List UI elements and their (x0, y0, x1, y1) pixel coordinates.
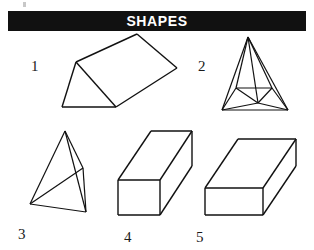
shape-label-5: 5 (196, 229, 204, 246)
tetra-apex-to-back (65, 131, 83, 168)
prism-front-left-edge (62, 62, 76, 107)
prism-top-left-edge (76, 34, 137, 62)
shape-3-tetrahedron (30, 131, 86, 212)
shape-5-rectangular-beam (205, 139, 296, 215)
prism-lower-right-edge (116, 68, 177, 107)
beam4-top-left-receding-edge (118, 131, 151, 180)
shape-4-square-beam (118, 131, 192, 215)
shape-1-triangular-prism (62, 34, 177, 107)
prism-front-right-edge (76, 62, 116, 107)
tetra-base-front-edge (30, 204, 86, 212)
shape-label-2: 2 (198, 58, 206, 75)
shape-diagram-canvas (0, 0, 314, 250)
pyramid-apex-to-back-left (236, 37, 248, 88)
shape-label-1: 1 (31, 58, 39, 75)
tetra-base-left-edge (30, 168, 83, 204)
pyramid-inner-right-edge (258, 88, 272, 103)
shape-label-4: 4 (124, 229, 132, 246)
prism-back-edge (137, 34, 177, 68)
shape-2-square-pyramid (222, 37, 288, 110)
tetra-apex-to-left (30, 131, 65, 204)
pyramid-inner-left-edge (236, 88, 258, 103)
shape-label-3: 3 (18, 226, 26, 243)
pyramid-apex-to-front-left (222, 37, 248, 110)
beam5-bottom-right-receding-edge (263, 166, 296, 215)
pyramid-inner-lower-left-edge (222, 103, 258, 110)
beam5-top-left-receding-edge (205, 139, 238, 188)
shapes-figure: SHAPES (0, 0, 314, 250)
beam5-top-right-receding-edge (263, 139, 296, 188)
